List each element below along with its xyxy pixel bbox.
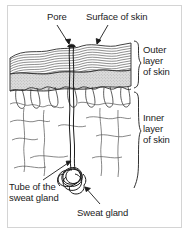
label-sweat-gland: Sweat gland (77, 207, 128, 218)
pore (68, 44, 76, 47)
sweat-gland-coil (58, 167, 86, 194)
label-pore: Pore (47, 11, 67, 22)
skin-diagram-figure: Pore Surface of skin Outer layer of skin… (0, 0, 189, 233)
label-tube-of-the-sweat-gland: Tube of the sweat gland (9, 181, 59, 203)
label-surface-of-skin: Surface of skin (86, 11, 147, 22)
inner-layer-bracket (134, 92, 141, 188)
outer-layer-bracket (134, 41, 141, 88)
label-outer-layer-of-skin: Outer layer of skin (143, 44, 170, 77)
label-inner-layer-of-skin: Inner layer of skin (143, 112, 170, 145)
